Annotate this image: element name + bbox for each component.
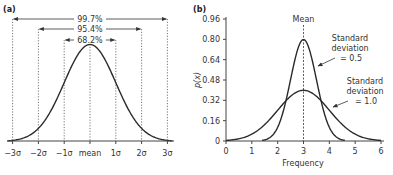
x-tick-label: 1σ — [111, 149, 121, 158]
x-tick-label: −2σ — [30, 149, 47, 158]
annotation-arrow — [318, 58, 335, 66]
x-tick-label: 3σ — [162, 149, 172, 158]
x-tick-label: 5 — [353, 147, 358, 156]
x-tick-label: 0 — [223, 147, 228, 156]
panel-a: (a) 99.7%95.4%68.2% −3σ−2σ−1σmean1σ2σ3σ — [3, 5, 174, 158]
interval-label: 68.2% — [77, 36, 103, 45]
annotation-text: deviation — [346, 87, 383, 96]
y-tick-label: 0.80 — [202, 35, 220, 44]
x-tick-label: 2 — [275, 147, 280, 156]
annotation-arrow — [333, 101, 348, 107]
x-tick-label: mean — [79, 149, 102, 158]
y-tick-label: 0.96 — [202, 15, 220, 24]
mean-label: Mean — [293, 15, 315, 24]
panel-a-label: (a) — [3, 5, 16, 14]
y-tick-label: 0.16 — [202, 117, 220, 126]
x-tick-label: 3 — [301, 147, 306, 156]
annotation-text: deviation — [331, 44, 368, 53]
annotation-text: Standard — [332, 34, 368, 43]
interval-label: 99.7% — [77, 15, 103, 24]
interval-arrows: 99.7%95.4%68.2% — [14, 15, 167, 45]
x-ticks-b: 0123456 — [223, 141, 383, 156]
annotations: Standarddeviation= 0.5Standarddeviation=… — [318, 34, 384, 107]
annotation-text: Standard — [347, 77, 383, 86]
x-tick-label: 2σ — [137, 149, 147, 158]
x-tick-label: 4 — [327, 147, 332, 156]
x-tick-label: −3σ — [4, 149, 21, 158]
y-axis-label: p(x) — [193, 72, 202, 89]
x-ticks-a: −3σ−2σ−1σmean1σ2σ3σ — [4, 141, 172, 158]
x-tick-label: −1σ — [56, 149, 73, 158]
interval-label: 95.4% — [77, 25, 103, 34]
x-tick-label: 6 — [378, 147, 383, 156]
y-tick-label: 0.64 — [202, 56, 220, 65]
panel-b-label: (b) — [193, 5, 206, 14]
y-tick-label: 0.32 — [202, 96, 220, 105]
annotation-text: = 0.5 — [340, 54, 362, 63]
x-axis-label: Frequency — [282, 159, 324, 168]
annotation-text: = 1.0 — [355, 97, 377, 106]
panel-b: (b) 00.160.320.480.640.800.96 0123456 Me… — [193, 5, 384, 168]
x-tick-label: 1 — [249, 147, 254, 156]
y-ticks-b: 00.160.320.480.640.800.96 — [202, 15, 226, 146]
figure: (a) 99.7%95.4%68.2% −3σ−2σ−1σmean1σ2σ3σ … — [0, 0, 393, 175]
y-tick-label: 0.48 — [202, 76, 220, 85]
y-tick-label: 0 — [215, 137, 220, 146]
